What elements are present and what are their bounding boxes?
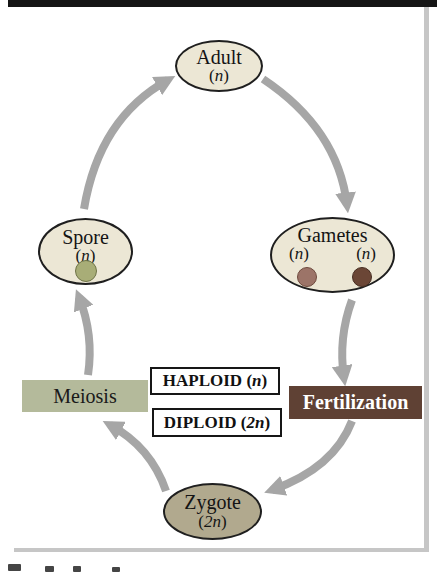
zygote-label: Zygote: [184, 492, 241, 512]
cropped-caption-mark: [45, 566, 54, 572]
zygote-ploidy: (2n): [198, 513, 226, 531]
arrow-spore-to-adult: [84, 80, 168, 209]
spore-cell-dot: [75, 260, 97, 282]
gametes-ploidy-row: (n) (n): [272, 245, 393, 263]
zygote-node: Zygote (2n): [163, 483, 262, 540]
gametes-label: Gametes: [298, 225, 368, 245]
gamete-right-ploidy: (n): [356, 245, 376, 263]
fertilization-label: Fertilization: [303, 391, 409, 414]
meiosis-label: Meiosis: [53, 385, 116, 408]
figure-top-rule: [8, 0, 437, 7]
haploid-phase-box: HAPLOID (n): [150, 367, 280, 395]
meiosis-box: Meiosis: [22, 380, 148, 412]
adult-ploidy: (n): [209, 67, 229, 85]
arrow-adult-to-gametes: [263, 79, 347, 205]
arrow-gametes-to-fertilization: [342, 300, 352, 378]
diploid-phase-box: DIPLOID (2n): [152, 408, 282, 437]
adult-label: Adult: [196, 47, 242, 67]
fertilization-box: Fertilization: [289, 386, 422, 419]
arrow-fertilization-to-zygote: [272, 421, 352, 490]
gamete-left-ploidy: (n): [289, 245, 309, 263]
arrow-meiosis-to-spore: [79, 297, 90, 375]
cropped-caption-mark: [73, 566, 81, 572]
life-cycle-diagram: Adult (n) Spore (n) Gametes (n) (n) Zygo…: [0, 0, 445, 574]
gamete-cell-left-dot: [297, 267, 317, 287]
adult-node: Adult (n): [175, 40, 263, 92]
spore-label: Spore: [62, 227, 109, 247]
gamete-cell-right-dot: [352, 267, 372, 287]
cropped-caption-mark: [8, 564, 21, 571]
cropped-caption-mark: [112, 567, 120, 572]
spore-node: Spore (n): [38, 218, 133, 285]
gametes-node: Gametes (n) (n): [270, 217, 395, 293]
